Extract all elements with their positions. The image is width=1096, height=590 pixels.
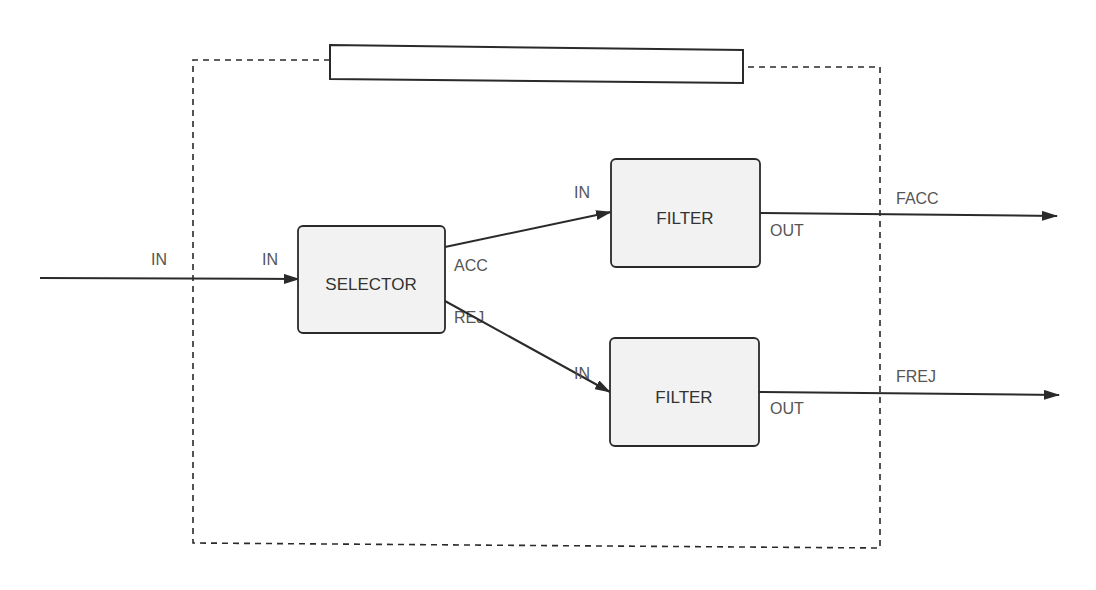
block-diagram: IN SELECTOR IN ACC REJ FILTER IN OUT FIL…: [0, 0, 1096, 590]
input-signal-line: [40, 278, 299, 279]
filter-bottom-label: FILTER: [655, 388, 712, 407]
facc-output-line: [760, 213, 1057, 216]
subsystem-title-box[interactable]: [330, 45, 743, 83]
filter-top-label: FILTER: [656, 209, 713, 228]
filter-block-bottom[interactable]: FILTER: [610, 338, 759, 446]
frej-output-line: [759, 392, 1059, 395]
selector-label: SELECTOR: [325, 275, 416, 294]
selector-port-in: IN: [262, 251, 278, 268]
acc-signal-line: [445, 212, 611, 247]
selector-port-acc: ACC: [454, 257, 488, 274]
facc-output-label: FACC: [896, 190, 939, 207]
filter-top-port-in: IN: [574, 184, 590, 201]
filter-bottom-port-in: IN: [574, 365, 590, 382]
input-signal-label: IN: [151, 251, 167, 268]
filter-block-top[interactable]: FILTER: [611, 159, 760, 267]
filter-bottom-port-out: OUT: [770, 400, 804, 417]
selector-port-rej: REJ: [454, 309, 484, 326]
filter-top-port-out: OUT: [770, 222, 804, 239]
subsystem-boundary: [193, 60, 880, 548]
selector-block[interactable]: SELECTOR: [298, 226, 445, 333]
frej-output-label: FREJ: [896, 368, 936, 385]
